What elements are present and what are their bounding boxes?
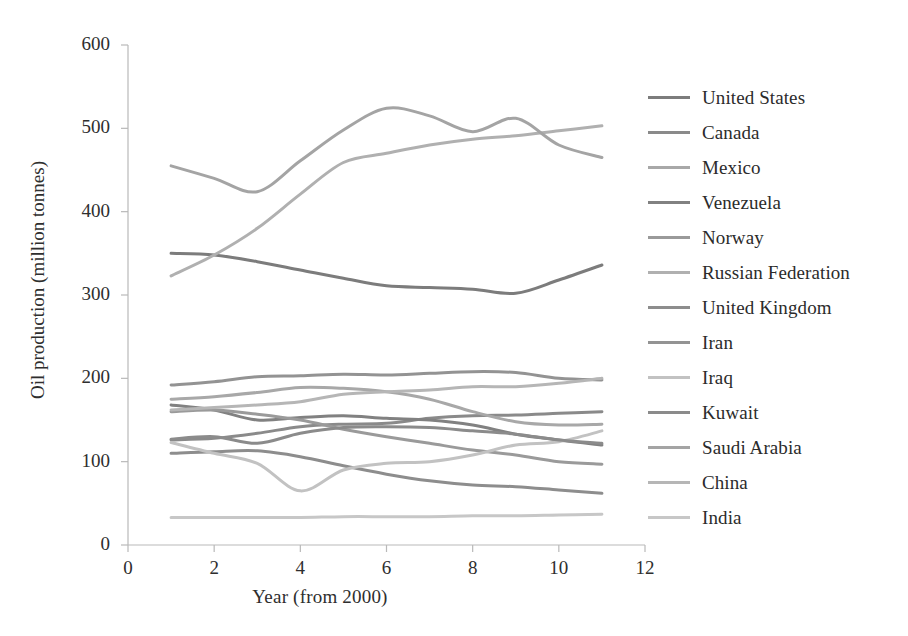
legend-item-label: Venezuela [702, 192, 781, 214]
legend-line-icon [648, 516, 690, 519]
legend-line-icon [648, 341, 690, 344]
legend-item[interactable]: China [648, 465, 900, 500]
legend-item-label: Iraq [702, 367, 733, 389]
y-tick-marks [121, 45, 128, 545]
y-tick-label: 0 [40, 533, 110, 555]
y-tick-label: 200 [40, 366, 110, 388]
legend-item[interactable]: Russian Federation [648, 255, 900, 290]
legend-line-icon [648, 446, 690, 449]
x-tick-label: 12 [625, 557, 665, 579]
legend-line-icon [648, 201, 690, 204]
legend-item-label: Mexico [702, 157, 761, 179]
legend-item-label: Saudi Arabia [702, 437, 802, 459]
series-line [171, 253, 602, 293]
x-tick-label: 4 [280, 557, 320, 579]
legend-line-icon [648, 271, 690, 274]
series-line [171, 108, 602, 192]
legend-line-icon [648, 481, 690, 484]
axis-lines [128, 45, 645, 545]
oil-production-line-chart: Oil production (million tonnes) Year (fr… [0, 0, 908, 636]
legend-item[interactable]: Mexico [648, 150, 900, 185]
series-lines [171, 108, 602, 518]
legend-item[interactable]: United States [648, 80, 900, 115]
x-tick-label: 2 [194, 557, 234, 579]
x-tick-label: 8 [453, 557, 493, 579]
legend-item[interactable]: Saudi Arabia [648, 430, 900, 465]
y-tick-label: 600 [40, 33, 110, 55]
legend-item-label: Iran [702, 332, 733, 354]
legend-item[interactable]: Norway [648, 220, 900, 255]
y-tick-label: 300 [40, 283, 110, 305]
legend-item[interactable]: United Kingdom [648, 290, 900, 325]
series-line [171, 514, 602, 517]
legend-item-label: Kuwait [702, 402, 759, 424]
legend-item-label: Canada [702, 122, 760, 144]
legend-line-icon [648, 131, 690, 134]
y-tick-label: 100 [40, 450, 110, 472]
legend-item-label: China [702, 472, 748, 494]
legend-item-label: Norway [702, 227, 764, 249]
legend-item[interactable]: Venezuela [648, 185, 900, 220]
legend-item-label: Russian Federation [702, 262, 850, 284]
legend-line-icon [648, 411, 690, 414]
legend-line-icon [648, 166, 690, 169]
legend-line-icon [648, 306, 690, 309]
series-line [171, 372, 602, 385]
legend-item[interactable]: Kuwait [648, 395, 900, 430]
x-axis-label: Year (from 2000) [0, 586, 640, 608]
y-axis-label: Oil production (million tonnes) [27, 161, 49, 399]
x-tick-label: 6 [367, 557, 407, 579]
x-tick-marks [128, 545, 645, 552]
legend-line-icon [648, 96, 690, 99]
x-tick-label: 0 [108, 557, 148, 579]
legend-line-icon [648, 236, 690, 239]
legend-item-label: India [702, 507, 742, 529]
y-tick-label: 500 [40, 116, 110, 138]
legend-item-label: United States [702, 87, 805, 109]
legend-item[interactable]: India [648, 500, 900, 535]
x-tick-label: 10 [539, 557, 579, 579]
chart-legend: United StatesCanadaMexicoVenezuelaNorway… [648, 80, 900, 535]
legend-item[interactable]: Canada [648, 115, 900, 150]
legend-item[interactable]: Iran [648, 325, 900, 360]
y-tick-label: 400 [40, 200, 110, 222]
series-line [171, 126, 602, 276]
y-axis-label-wrap: Oil production (million tonnes) [18, 0, 58, 560]
legend-line-icon [648, 376, 690, 379]
legend-item-label: United Kingdom [702, 297, 832, 319]
legend-item[interactable]: Iraq [648, 360, 900, 395]
